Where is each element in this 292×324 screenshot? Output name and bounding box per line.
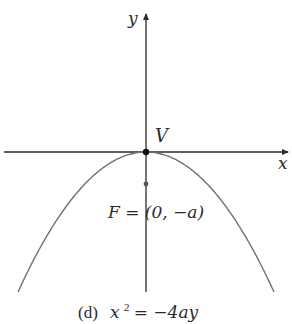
- x-axis-label: x: [278, 153, 288, 173]
- caption-lhs-base: x: [110, 302, 120, 322]
- vertex-label: V: [155, 125, 170, 146]
- focus-label: F = (0, −a): [107, 202, 204, 222]
- caption: (d) x 2 = −4ay: [78, 296, 199, 322]
- focus-point: [144, 182, 149, 187]
- caption-lhs-exp: 2: [124, 301, 130, 313]
- caption-label: (d): [78, 303, 98, 322]
- vertex-point: [143, 149, 149, 155]
- caption-rhs: = −4ay: [134, 302, 199, 322]
- parabola-diagram: y x V F = (0, −a) (d) x 2 = −4ay: [0, 0, 292, 324]
- y-axis-label: y: [127, 8, 138, 28]
